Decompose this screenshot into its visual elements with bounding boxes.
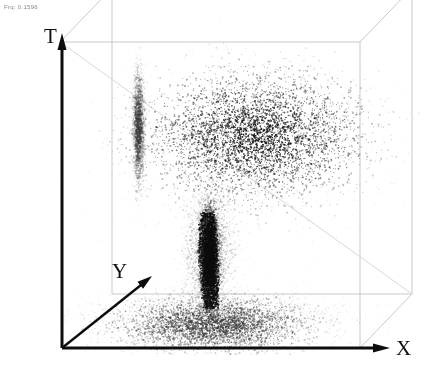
axis-label-y: Y [112,261,127,282]
axis-label-x: X [396,338,411,359]
scatter-plot-canvas [0,0,425,376]
axis-label-t: T [44,26,57,47]
visualization-figure: T X Y Frq: 0.1596 [0,0,425,376]
frequency-annotation: Frq: 0.1596 [4,4,38,10]
